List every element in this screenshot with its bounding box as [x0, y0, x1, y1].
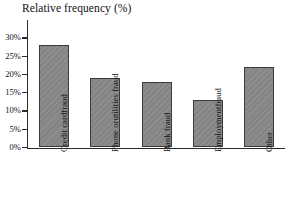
x-axis-label-line: Bank fraud: [162, 113, 172, 152]
x-axis-label-stack: Bank fraud: [162, 113, 172, 152]
x-axis-label-stack: Credit cardfraud: [59, 94, 69, 152]
x-axis-label-line: Other: [264, 132, 274, 152]
x-axis-label-stack: Other: [264, 132, 274, 152]
x-axis-label-line: fraud: [213, 88, 223, 107]
x-axis-label-line: Credit card: [59, 113, 69, 152]
x-axis-label-line: fraud: [59, 94, 69, 113]
x-axis-label-line: Phone or: [110, 120, 120, 152]
bar-chart: Relative frequency (%) 0%5%10%15%20%25%3…: [0, 0, 292, 218]
bars-layer: [0, 0, 292, 218]
x-axis-label-stack: Phone orutilities fraud: [110, 73, 120, 152]
x-axis-label: Bank fraud: [162, 113, 172, 152]
x-axis-label-stack: Employmentfraud: [213, 88, 223, 152]
x-axis-label-line: utilities fraud: [110, 73, 120, 120]
x-axis-label: Credit cardfraud: [59, 94, 69, 152]
x-axis-label-line: Employment: [213, 107, 223, 152]
x-axis-label: Other: [264, 132, 274, 152]
x-axis-label: Phone orutilities fraud: [110, 73, 120, 152]
x-axis-label: Employmentfraud: [213, 88, 223, 152]
